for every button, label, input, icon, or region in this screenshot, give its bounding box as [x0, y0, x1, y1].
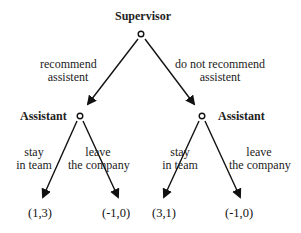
action-label-right-leave: leave the company — [229, 146, 289, 172]
assistant-node-right — [199, 113, 205, 119]
payoff-not-recommend-stay: (3,1) — [152, 206, 176, 221]
action-label-line: assistent — [40, 71, 96, 84]
action-label-right-stay: stay in team — [160, 146, 200, 172]
action-label-line: in team — [160, 159, 200, 172]
payoff-recommend-stay: (1,3) — [28, 206, 52, 221]
supervisor-node — [138, 31, 144, 37]
supervisor-label: Supervisor — [115, 10, 171, 23]
payoff-not-recommend-leave: (-1,0) — [225, 206, 253, 221]
action-label-line: the company — [68, 159, 128, 172]
action-label-left-stay: stay in team — [14, 146, 54, 172]
assistant-label-left: Assistant — [20, 110, 67, 123]
assistant-node-left — [77, 113, 83, 119]
action-label-recommend: recommend assistent — [40, 58, 96, 84]
action-label-line: in team — [14, 159, 54, 172]
action-label-left-leave: leave the company — [68, 146, 128, 172]
assistant-label-right: Assistant — [218, 110, 265, 123]
action-label-line: the company — [229, 159, 289, 172]
payoff-recommend-leave: (-1,0) — [102, 206, 130, 221]
action-label-do-not-recommend: do not recommend assistent — [175, 58, 265, 84]
action-label-line: assistent — [175, 71, 265, 84]
